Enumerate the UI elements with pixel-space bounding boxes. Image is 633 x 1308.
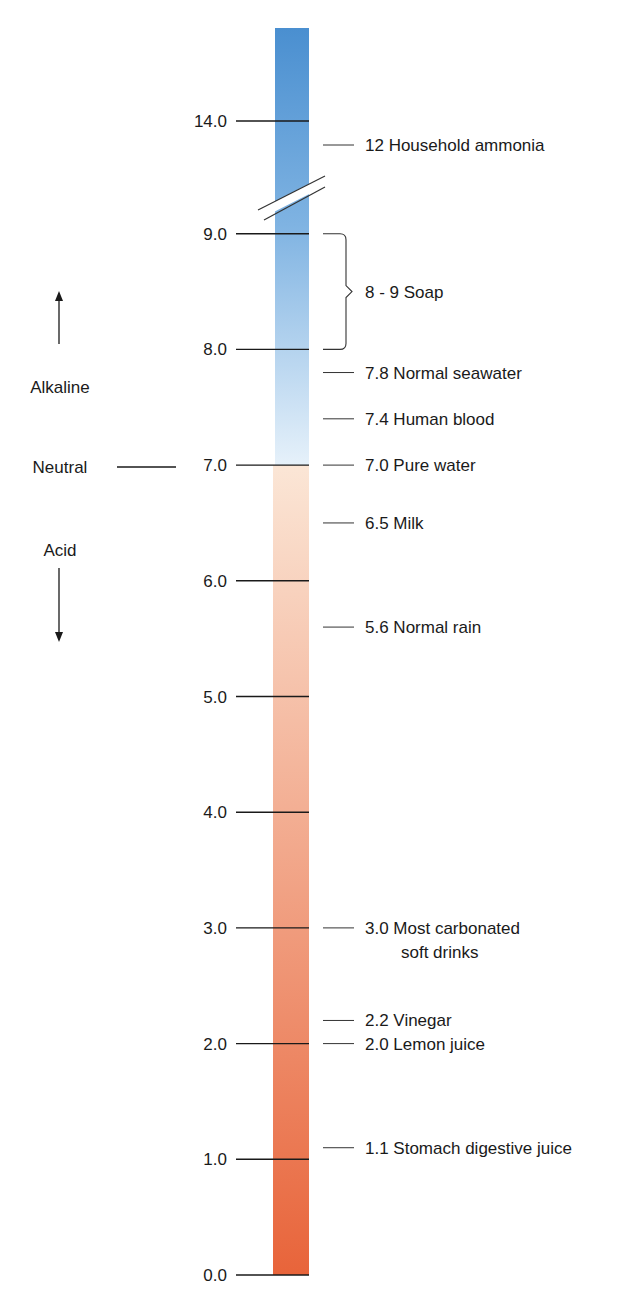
annotation-label: 7.8 Normal seawater [365,364,522,383]
annotation: 7.8 Normal seawater [323,364,522,383]
annotation-label: 2.2 Vinegar [365,1011,452,1030]
ph-bar-alkaline-segment [275,28,309,465]
annotation: 7.4 Human blood [323,410,494,429]
annotation: 12 Household ammonia [323,136,545,155]
annotation: 6.5 Milk [323,514,424,533]
annotation-label: 12 Household ammonia [365,136,545,155]
neutral-label: Neutral [33,458,88,477]
down-arrow-icon [55,632,63,642]
tick-label: 1.0 [203,1150,227,1169]
tick-label: 8.0 [203,340,227,359]
annotation: 1.1 Stomach digestive juice [323,1139,572,1158]
tick-label: 9.0 [203,225,227,244]
annotation-label: 5.6 Normal rain [365,618,481,637]
annotation: 7.0 Pure water [323,456,476,475]
tick-label: 2.0 [203,1035,227,1054]
annotation: 2.0 Lemon juice [323,1035,485,1054]
annotation-label: 7.4 Human blood [365,410,494,429]
annotation-label: 8 - 9 Soap [365,283,443,302]
annotation: 2.2 Vinegar [323,1011,452,1030]
annotation-label-line2: soft drinks [401,943,478,962]
tick-label: 14.0 [194,112,227,131]
annotation-label: 1.1 Stomach digestive juice [365,1139,572,1158]
tick-label: 5.0 [203,688,227,707]
tick-label: 6.0 [203,572,227,591]
annotation: 3.0 Most carbonatedsoft drinks [323,919,520,962]
acid-label: Acid [43,541,76,560]
annotation: 5.6 Normal rain [323,618,481,637]
ph-scale-diagram: 0.01.02.03.04.05.06.07.08.09.014.0 12 Ho… [0,0,633,1308]
annotation: 8 - 9 Soap [323,234,443,350]
tick-label: 0.0 [203,1266,227,1285]
tick-label: 3.0 [203,919,227,938]
annotation-label: 3.0 Most carbonated [365,919,520,938]
alkaline-label: Alkaline [30,378,90,397]
tick-label: 7.0 [203,456,227,475]
side-labels: Alkaline Neutral Acid [30,291,176,642]
ph-bar-acid-segment [273,465,309,1275]
annotation-label: 7.0 Pure water [365,456,476,475]
up-arrow-icon [55,291,63,301]
annotation-label: 2.0 Lemon juice [365,1035,485,1054]
range-bracket [323,234,352,350]
tick-label: 4.0 [203,803,227,822]
annotation-label: 6.5 Milk [365,514,424,533]
